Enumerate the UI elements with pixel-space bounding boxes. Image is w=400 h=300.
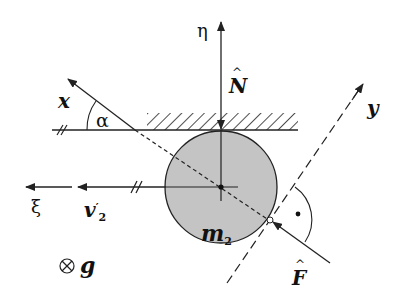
normal-force-symbol: N (229, 76, 247, 96)
contact-force-symbol: F (292, 268, 306, 288)
label-gravity: g (80, 254, 95, 276)
y-axis-arrow (352, 84, 363, 100)
alpha-arc (87, 101, 96, 130)
label-contact-force: F (292, 268, 306, 288)
label-xi-axis: ξ (31, 198, 41, 216)
label-normal-force: N (229, 76, 247, 96)
free-body-diagram (0, 0, 400, 300)
contact-force-arrow (273, 222, 330, 263)
label-mass: m2 (201, 222, 232, 247)
mass-symbol: m (201, 220, 224, 246)
wall-hatching (147, 113, 298, 130)
center-point (218, 184, 223, 189)
velocity-subscript: 2 (99, 211, 107, 224)
velocity-symbol: v (84, 198, 96, 222)
right-angle-dot (296, 212, 301, 217)
contact-point (267, 217, 273, 223)
label-eta-axis: η (197, 22, 208, 40)
label-y-axis: y (367, 98, 379, 118)
mass-subscript: 2 (224, 235, 232, 248)
label-alpha: α (96, 111, 109, 130)
label-velocity: v′2 (84, 200, 106, 223)
label-x-axis: x (58, 91, 70, 111)
